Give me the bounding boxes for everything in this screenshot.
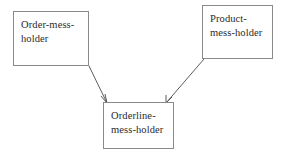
node-product-mess-holder-label: Product- mess-holder [210,12,268,39]
node-order-mess-holder[interactable]: Order-mess- holder [13,11,89,66]
node-orderline-mess-holder[interactable]: Orderline- mess-holder [103,102,174,149]
node-product-mess-holder[interactable]: Product- mess-holder [202,5,273,59]
node-order-mess-holder-label: Order-mess- holder [21,18,84,45]
diagram-canvas: Order-mess- holder Product- mess-holder … [0,0,284,155]
connector-product-to-orderline [166,59,204,103]
node-orderline-mess-holder-label: Orderline- mess-holder [111,109,169,136]
connector-order-to-orderline [89,66,107,103]
